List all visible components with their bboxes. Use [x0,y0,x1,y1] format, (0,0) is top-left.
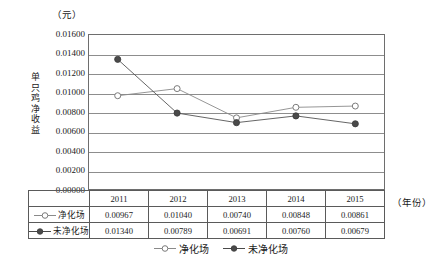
row-label-text: 净化场 [58,210,85,220]
filled-circle-marker-icon [223,244,245,253]
data-point-marker [115,56,121,62]
y-axis-tick-label: 0.01600 [25,30,85,39]
data-point-marker [352,121,358,127]
table-row-label: 净化场 [29,207,90,223]
table-cell: 0.00760 [267,223,326,239]
table-cell: 0.01340 [90,223,149,239]
legend-entry: 净化场 [154,241,209,256]
row-legend-marker [29,227,51,236]
y-axis-tick-label: 0.00600 [25,127,85,136]
table-header-row: 20112012201320142015 [29,191,385,207]
table-cell: 0.00967 [90,207,149,223]
y-axis-tick-label: 0.01000 [25,88,85,97]
data-point-marker [233,120,239,126]
table-cell: 0.00861 [326,207,385,223]
legend-entry: 未净化场 [223,241,288,256]
filled-circle-marker-icon [29,227,51,236]
table-cell: 0.00679 [326,223,385,239]
table-header-cell: 2014 [267,191,326,207]
series-layer [88,34,385,190]
table-header-cell: 2012 [149,191,208,207]
table-row: 净化场0.009670.010400.007400.008480.00861 [29,207,385,223]
open-circle-marker-icon [34,211,56,220]
data-table: 20112012201320142015净化场0.009670.010400.0… [28,190,385,239]
table-header-cell: 2013 [208,191,267,207]
y-axis-tick-label: 0.01400 [25,49,85,58]
data-point-marker [293,113,299,119]
legend-label: 净化场 [179,241,209,256]
data-table-wrapper: 20112012201320142015净化场0.009670.010400.0… [28,190,385,238]
series-line-净化场 [118,89,356,118]
table-cell: 0.00848 [267,207,326,223]
y-axis-unit-label: （元） [52,7,82,21]
row-legend-marker [34,211,56,220]
table-cell: 0.00691 [208,223,267,239]
x-axis-label: （年份） [392,195,432,209]
legend-label: 未净化场 [248,241,288,256]
y-axis-tick-label: 0.01200 [25,69,85,78]
table-corner-cell [29,191,90,207]
chart-legend: 净化场未净化场 [0,241,441,256]
row-label-text: 未净化场 [53,226,89,236]
table-header-cell: 2015 [326,191,385,207]
table-row: 未净化场0.013400.007890.006910.007600.00679 [29,223,385,239]
open-circle-marker-icon [154,244,176,253]
y-axis-tick-label: 0.00400 [25,147,85,156]
data-point-marker [293,104,299,110]
table-header-cell: 2011 [90,191,149,207]
data-point-marker [174,86,180,92]
table-cell: 0.01040 [149,207,208,223]
chart-figure: （元） 单只鸡净收益 0.016000.014000.012000.010000… [0,0,441,262]
data-point-marker [352,103,358,109]
y-axis-tick-label: 0.00800 [25,108,85,117]
y-axis-tick-label: 0.00200 [25,166,85,175]
y-axis-title: 单只鸡净收益 [28,72,42,135]
series-line-未净化场 [118,59,356,123]
table-row-label: 未净化场 [29,223,90,239]
table-cell: 0.00740 [208,207,267,223]
data-point-marker [174,110,180,116]
table-cell: 0.00789 [149,223,208,239]
data-point-marker [115,93,121,99]
